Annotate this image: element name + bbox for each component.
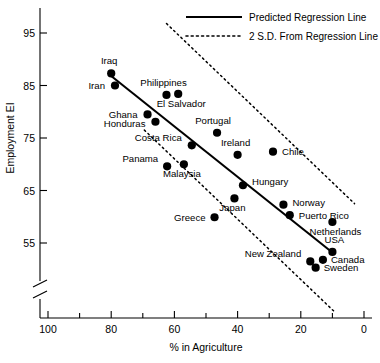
y-axis-break-icon <box>33 291 47 298</box>
data-point-label: Greece <box>174 212 205 223</box>
data-point-marker[interactable] <box>286 211 294 219</box>
legend-label: 2 S.D. From Regression Line <box>249 31 378 42</box>
data-point-marker[interactable] <box>174 90 182 98</box>
data-point-label: Hungary <box>252 176 288 187</box>
x-tick-label: 100 <box>39 323 57 335</box>
y-tick-label: 95 <box>23 27 35 39</box>
data-point-label: Iraq <box>101 55 118 66</box>
y-tick-label: 85 <box>23 80 35 92</box>
y-axis-break-icon <box>33 280 47 287</box>
data-point-marker[interactable] <box>328 218 336 226</box>
data-point-label: Panama <box>122 153 158 164</box>
chart-canvas: 9585756555100806040200% in AgricultureEm… <box>0 0 380 363</box>
x-tick-label: 60 <box>169 323 181 335</box>
data-point-label: Sweden <box>324 262 359 273</box>
data-point-marker[interactable] <box>188 141 196 149</box>
data-point-label: El Salvador <box>157 98 207 109</box>
data-point-marker[interactable] <box>234 151 242 159</box>
data-point-label: Philippines <box>140 77 187 88</box>
scatter-plot-figure: 9585756555100806040200% in AgricultureEm… <box>0 0 380 363</box>
y-tick-label: 75 <box>23 132 35 144</box>
data-point-marker[interactable] <box>210 213 218 221</box>
x-tick-label: 40 <box>232 323 244 335</box>
data-point-marker[interactable] <box>312 264 320 272</box>
legend-label: Predicted Regression Line <box>249 12 367 23</box>
y-tick-label: 55 <box>23 237 35 249</box>
x-tick-label: 80 <box>105 323 117 335</box>
data-point-label: Iran <box>88 80 105 91</box>
data-point-marker[interactable] <box>111 81 119 89</box>
data-point-marker[interactable] <box>151 118 159 126</box>
data-point-marker[interactable] <box>213 129 221 137</box>
data-point-marker[interactable] <box>269 148 277 156</box>
x-tick-label: 20 <box>295 323 307 335</box>
data-point-label: Honduras <box>104 118 146 129</box>
data-point-marker[interactable] <box>180 160 188 168</box>
y-tick-label: 65 <box>23 185 35 197</box>
data-point-label: USA <box>325 234 345 245</box>
data-point-label: Ireland <box>221 137 250 148</box>
data-point-marker[interactable] <box>107 69 115 77</box>
y-axis-title: Employment EI <box>4 102 16 173</box>
data-point-label: Puerto Rico <box>299 210 349 221</box>
data-point-label: Portugal <box>195 115 231 126</box>
data-point-label: Chile <box>282 146 304 157</box>
data-point-marker[interactable] <box>279 201 287 209</box>
x-axis-title: % in Agriculture <box>170 341 243 353</box>
data-point-label: Malaysia <box>163 168 202 179</box>
data-point-marker[interactable] <box>230 194 238 202</box>
data-point-label: New Zealand <box>245 248 302 259</box>
data-point-marker[interactable] <box>306 257 314 265</box>
x-tick-label: 0 <box>361 323 367 335</box>
data-point-marker[interactable] <box>239 181 247 189</box>
data-point-label: Japan <box>219 202 245 213</box>
data-point-label: Costa Rica <box>135 132 183 143</box>
data-point-label: Norway <box>292 197 325 208</box>
